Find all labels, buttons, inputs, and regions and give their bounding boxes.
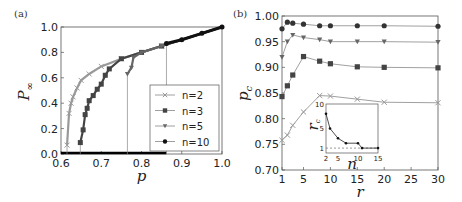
square-marker <box>99 82 104 87</box>
y-tick-label: 0.85 <box>255 87 280 100</box>
square-marker <box>87 98 92 103</box>
y-tick-label: 0.80 <box>255 113 280 126</box>
inset: 1510251015nrc <box>304 101 382 174</box>
panel-a-label: (a) <box>14 8 28 19</box>
circle-marker <box>285 20 290 25</box>
figure: (a)0.00.20.40.60.81.00.60.70.80.91.0pP∞n… <box>0 0 462 202</box>
inset-y-tick-label: 1 <box>320 145 324 153</box>
x-tick-label: 30 <box>431 173 445 186</box>
panel-a: (a)0.00.20.40.60.81.00.60.70.80.91.0pP∞n… <box>14 8 231 185</box>
circle-marker <box>179 37 184 42</box>
circle-marker <box>279 26 284 31</box>
x-axis-label: r <box>356 183 364 201</box>
square-marker <box>435 65 440 70</box>
inset-marker <box>329 127 332 130</box>
series-n-3 <box>279 54 440 99</box>
circle-marker <box>382 23 387 28</box>
series-line <box>282 35 438 57</box>
inset-marker <box>377 147 380 150</box>
x-tick-label: 0.9 <box>173 157 191 170</box>
legend-label: n=10 <box>182 137 209 148</box>
circle-marker <box>301 22 306 27</box>
inset-marker <box>325 113 328 116</box>
square-marker <box>382 65 387 70</box>
circle-marker <box>355 23 360 28</box>
panel-b-label: (b) <box>233 8 247 19</box>
square-marker <box>103 73 108 78</box>
y-tick-label: 0.4 <box>41 97 59 110</box>
inset-y-axis-label: rc <box>304 119 322 130</box>
inset-frame <box>326 104 378 153</box>
circle-marker <box>317 23 322 28</box>
y-tick-label: 0.2 <box>41 123 59 136</box>
triangle-marker <box>285 40 290 45</box>
inset-x-tick-label: 2 <box>324 155 328 163</box>
square-marker <box>81 127 86 132</box>
square-marker <box>83 112 88 117</box>
legend-label: n=2 <box>182 90 203 101</box>
circle-marker <box>199 31 204 36</box>
y-axis-label-sub: c <box>243 85 254 91</box>
square-marker <box>107 66 112 71</box>
x-tick-label: 1.0 <box>213 157 231 170</box>
y-axis-label-sub: ∞ <box>24 82 35 90</box>
square-marker <box>285 83 290 88</box>
inset-marker <box>345 142 348 145</box>
triangle-marker <box>125 72 130 77</box>
y-axis-label: P∞ <box>15 82 35 101</box>
inset-marker <box>337 137 340 140</box>
x-tick-label: 25 <box>404 173 418 186</box>
legend-label: n=3 <box>182 106 203 117</box>
circle-marker <box>164 41 169 46</box>
y-tick-label: 1.0 <box>41 21 59 34</box>
square-marker <box>279 94 284 99</box>
square-marker <box>317 59 322 64</box>
inset-y-axis-label-sub: c <box>314 119 322 123</box>
y-tick-label: 0.6 <box>41 72 59 85</box>
circle-marker <box>220 25 225 30</box>
y-tick-label: 0.95 <box>255 36 280 49</box>
triangle-marker <box>279 55 284 60</box>
y-tick-label: 0.70 <box>255 164 280 177</box>
x-tick-label: 0.7 <box>93 157 111 170</box>
x-axis-label: p <box>137 167 147 185</box>
series-line <box>166 27 222 44</box>
inset-x-tick-label: 15 <box>374 155 383 163</box>
y-tick-label: 1.00 <box>255 10 280 23</box>
x-tick-label: 1 <box>279 173 286 186</box>
square-marker <box>301 54 306 59</box>
square-marker <box>95 87 100 92</box>
x-tick-label: 10 <box>323 173 337 186</box>
square-marker <box>328 61 333 66</box>
legend-label: n=5 <box>182 121 203 132</box>
circle-marker <box>435 24 440 29</box>
inset-x-axis-label: n <box>347 155 357 173</box>
circle-marker <box>163 139 167 143</box>
x-marker <box>285 132 290 137</box>
circle-marker <box>290 21 295 26</box>
x-tick-label: 20 <box>377 173 391 186</box>
series-n-10 <box>279 20 440 32</box>
panel-b: (b)0.700.750.800.850.900.951.00151015202… <box>233 8 445 201</box>
inset-x-tick-label: 5 <box>336 155 340 163</box>
inset-y-tick-label: 10 <box>315 101 324 109</box>
square-marker <box>290 72 295 77</box>
y-tick-label: 0.8 <box>41 46 59 59</box>
square-marker <box>119 56 124 61</box>
triangle-marker <box>131 55 136 60</box>
circle-marker <box>328 23 333 28</box>
x-marker <box>290 123 295 128</box>
legend: n=2n=3n=5n=10 <box>150 85 219 151</box>
square-marker <box>355 64 360 69</box>
y-tick-label: 0.90 <box>255 61 280 74</box>
x-tick-label: 5 <box>300 173 307 186</box>
inset-marker <box>357 142 360 145</box>
square-marker <box>91 93 96 98</box>
square-marker <box>163 108 167 112</box>
square-marker <box>78 140 83 145</box>
series-line <box>282 57 438 97</box>
square-marker <box>85 106 90 111</box>
y-axis-label: pc <box>234 85 254 101</box>
y-tick-label: 0.75 <box>255 138 280 151</box>
inset-marker <box>361 147 364 150</box>
